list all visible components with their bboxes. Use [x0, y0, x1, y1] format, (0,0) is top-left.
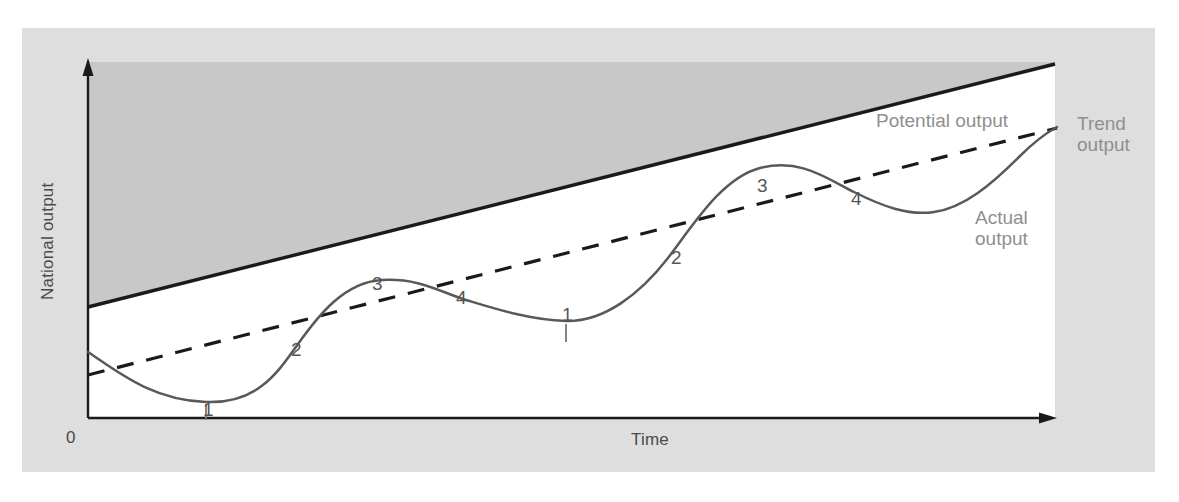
- plot-canvas: National output Time 0 Potential output …: [0, 0, 1179, 502]
- actual-output-label: Actual output: [975, 207, 1028, 249]
- trend-output-label-line2: output: [1077, 134, 1130, 155]
- chart-svg: [0, 0, 1179, 502]
- trend-output-label-line1: Trend: [1077, 113, 1130, 134]
- trend-output-label: Trend output: [1077, 113, 1130, 155]
- phase-marker-4: 4: [851, 189, 862, 208]
- business-cycle-figure: National output Time 0 Potential output …: [0, 0, 1179, 502]
- phase-marker-2: 2: [671, 248, 682, 267]
- potential-output-label: Potential output: [876, 110, 1008, 131]
- actual-output-label-line1: Actual: [975, 207, 1028, 228]
- phase-marker-2: 2: [291, 340, 302, 359]
- x-axis-title: Time: [631, 430, 669, 450]
- origin-label: 0: [66, 428, 76, 448]
- y-axis-title: National output: [38, 183, 58, 300]
- phase-marker-3: 3: [757, 176, 768, 195]
- phase-marker-3: 3: [372, 274, 383, 293]
- phase-marker-1: 1: [562, 305, 573, 324]
- phase-marker-4: 4: [456, 288, 467, 307]
- phase-marker-1: 1: [203, 400, 214, 419]
- actual-output-label-line2: output: [975, 228, 1028, 249]
